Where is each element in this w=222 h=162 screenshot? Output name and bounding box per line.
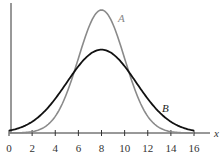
x-tick-label: 16 <box>189 142 201 154</box>
x-tick-labels: 0246810121416 <box>6 142 200 154</box>
x-tick-label: 2 <box>29 142 35 154</box>
x-tick-label: 4 <box>53 142 59 154</box>
x-tick-label: 10 <box>119 142 131 154</box>
x-tick-label: 12 <box>142 142 153 154</box>
x-tick-label: 6 <box>76 142 82 154</box>
x-tick-label: 14 <box>165 142 177 154</box>
curve-b <box>9 50 194 131</box>
curve-a <box>9 10 194 133</box>
x-tick-label: 8 <box>99 142 105 154</box>
curve-a-label: A <box>117 12 125 24</box>
chart: 0246810121416 A B x <box>0 0 222 162</box>
curve-b-label: B <box>162 102 169 114</box>
x-axis-label: x <box>213 127 219 139</box>
x-tick-label: 0 <box>6 142 12 154</box>
